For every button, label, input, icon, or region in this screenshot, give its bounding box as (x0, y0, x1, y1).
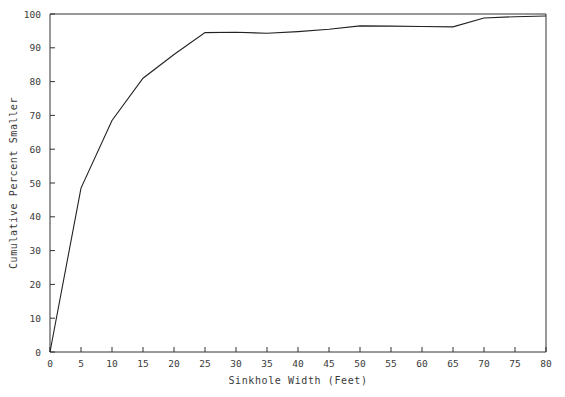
chart-background (0, 0, 565, 397)
x-tick-label: 55 (385, 358, 396, 369)
x-tick-label: 30 (230, 358, 242, 369)
x-axis-title: Sinkhole Width (Feet) (228, 375, 367, 386)
x-tick-label: 25 (199, 358, 210, 369)
x-tick-label: 80 (540, 358, 552, 369)
x-tick-label: 45 (323, 358, 334, 369)
y-tick-label: 60 (30, 144, 42, 155)
x-tick-label: 5 (78, 358, 84, 369)
x-tick-label: 70 (478, 358, 490, 369)
x-tick-label: 65 (447, 358, 458, 369)
x-tick-label: 40 (292, 358, 304, 369)
y-tick-label: 10 (30, 313, 42, 324)
y-tick-label: 100 (24, 9, 41, 20)
y-axis-title: Cumulative Percent Smaller (8, 97, 19, 269)
y-tick-label: 20 (30, 279, 42, 290)
y-tick-label: 0 (35, 347, 41, 358)
x-tick-label: 15 (137, 358, 148, 369)
y-tick-label: 70 (30, 110, 42, 121)
x-tick-label: 50 (354, 358, 366, 369)
x-tick-label: 0 (47, 358, 53, 369)
y-tick-label: 90 (30, 42, 42, 53)
x-tick-label: 20 (168, 358, 180, 369)
x-tick-label: 10 (106, 358, 118, 369)
y-tick-label: 50 (30, 178, 42, 189)
y-tick-label: 30 (30, 245, 42, 256)
cumulative-distribution-chart: 0102030405060708090100 05101520253035404… (0, 0, 565, 397)
y-tick-label: 80 (30, 76, 42, 87)
chart-figure: 0102030405060708090100 05101520253035404… (0, 0, 565, 397)
y-tick-label: 40 (30, 211, 42, 222)
x-tick-label: 60 (416, 358, 428, 369)
x-tick-label: 75 (509, 358, 520, 369)
x-tick-label: 35 (261, 358, 272, 369)
